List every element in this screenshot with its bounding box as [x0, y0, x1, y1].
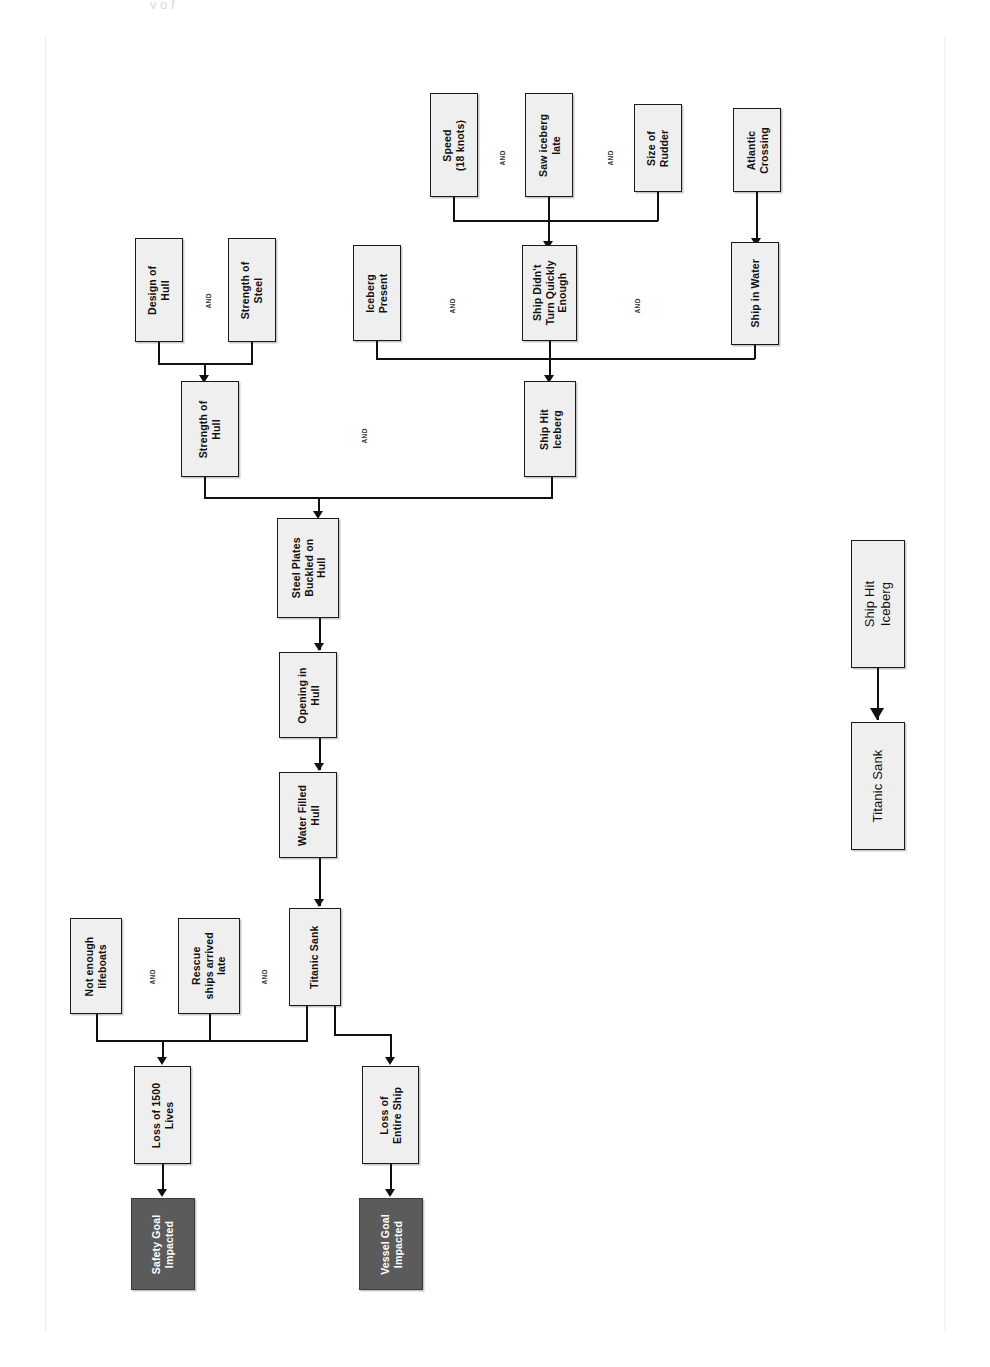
edge-lossship-bus	[334, 1034, 392, 1036]
node-loss-of-1500-lives-label: Loss of 1500 Lives	[150, 1082, 175, 1147]
node-ship-hit-iceberg-label: Ship Hit Iceberg	[538, 409, 563, 450]
node-strength-of-steel[interactable]: Strength of Steel	[228, 238, 276, 342]
node-ship-hit-iceberg[interactable]: Ship Hit Iceberg	[524, 381, 576, 477]
node-atlantic-crossing-label: Atlantic Crossing	[745, 127, 770, 174]
edge-design-down	[158, 342, 160, 364]
gate-and-sawlate-rudder: AND	[598, 136, 622, 160]
inset-arrowhead-to-titanic-sank	[870, 708, 884, 720]
edge-sank-right-down	[334, 1006, 336, 1036]
inset-node-ship-hit-iceberg-label: Ship Hit Iceberg	[862, 581, 894, 628]
node-ship-in-water-label: Ship in Water	[749, 259, 762, 328]
node-rescue-ships-arrived-late[interactable]: Rescue ships arrived late	[178, 918, 240, 1014]
arrowhead-to-vessel-goal	[385, 1189, 395, 1197]
gate-and-hull-hiticeberg: AND	[352, 414, 376, 438]
edge-top-bus	[453, 220, 658, 222]
gate-and-noturn-shipwater: AND	[625, 284, 649, 308]
node-loss-of-entire-ship-label: Loss of Entire Ship	[378, 1086, 403, 1143]
node-safety-goal-impacted-label: Safety Goal Impacted	[150, 1214, 175, 1273]
arrowhead-to-safety-goal	[157, 1189, 167, 1197]
gate-and-design-steel: AND	[196, 279, 220, 303]
node-size-of-rudder[interactable]: Size of Rudder	[634, 104, 682, 192]
edge-iceberg-down	[376, 341, 378, 359]
edge-hiticeberg-down	[551, 477, 553, 499]
edge-strengthhull-down	[204, 477, 206, 499]
node-vessel-goal-impacted-label: Vessel Goal Impacted	[378, 1214, 403, 1275]
edge-rudder-down	[657, 192, 659, 221]
edge-losslives-bus	[96, 1040, 308, 1042]
node-iceberg-present[interactable]: Iceberg Present	[353, 245, 401, 341]
arrowhead-to-water-filled-hull	[314, 763, 324, 771]
gate-and-lifeboats-rescue: AND	[140, 955, 164, 979]
node-water-filled-hull[interactable]: Water Filled Hull	[279, 772, 337, 858]
node-not-enough-lifeboats[interactable]: Not enough lifeboats	[70, 918, 122, 1014]
inset-node-titanic-sank[interactable]: Titanic Sank	[851, 722, 905, 850]
node-design-of-hull-label: Design of Hull	[147, 265, 172, 314]
node-titanic-sank-label: Titanic Sank	[309, 925, 322, 988]
edge-sawlate-down	[548, 197, 550, 245]
edge-hit-bus	[376, 358, 755, 360]
node-strength-of-steel-label: Strength of Steel	[240, 261, 265, 319]
node-speed-label: Speed (18 knots)	[442, 119, 467, 170]
node-size-of-rudder-label: Size of Rudder	[646, 129, 671, 167]
node-atlantic-crossing[interactable]: Atlantic Crossing	[733, 108, 781, 192]
node-loss-of-entire-ship[interactable]: Loss of Entire Ship	[362, 1066, 419, 1164]
arrowhead-to-loss-of-entire-ship	[385, 1057, 395, 1065]
node-rescue-ships-arrived-late-label: Rescue ships arrived late	[190, 932, 228, 999]
node-steel-plates-buckled-label: Steel Plates Buckled on Hull	[289, 538, 327, 599]
node-ship-didnt-turn-quickly-enough-label: Ship Didn't Turn Quickly Enough	[531, 260, 569, 325]
titanic-causal-diagram: Speed (18 knots) Saw iceberg late Size o…	[0, 0, 990, 1367]
gate-and-speed-sawlate: AND	[490, 136, 514, 160]
edge-speed-down	[453, 197, 455, 221]
inset-node-ship-hit-iceberg[interactable]: Ship Hit Iceberg	[851, 540, 905, 668]
gate-and-iceberg-noturn: AND	[440, 284, 464, 308]
edge-steel-down	[251, 342, 253, 364]
node-vessel-goal-impacted[interactable]: Vessel Goal Impacted	[359, 1198, 423, 1290]
node-iceberg-present-label: Iceberg Present	[364, 273, 389, 313]
node-speed[interactable]: Speed (18 knots)	[430, 93, 478, 197]
node-loss-of-1500-lives[interactable]: Loss of 1500 Lives	[134, 1066, 191, 1164]
node-saw-iceberg-late-label: Saw iceberg late	[537, 114, 562, 177]
node-steel-plates-buckled[interactable]: Steel Plates Buckled on Hull	[277, 518, 339, 618]
edge-shipwater-down	[754, 345, 756, 359]
node-saw-iceberg-late[interactable]: Saw iceberg late	[525, 93, 573, 197]
edge-buckled-bus	[204, 497, 553, 499]
gate-and-rescue-sank: AND	[252, 955, 276, 979]
arrowhead-to-loss-of-lives	[157, 1057, 167, 1065]
node-ship-didnt-turn-quickly-enough[interactable]: Ship Didn't Turn Quickly Enough	[522, 245, 577, 341]
inset-node-titanic-sank-label: Titanic Sank	[870, 750, 886, 823]
arrowhead-to-opening-in-hull	[314, 643, 324, 651]
edge-sank-left-down	[306, 1006, 308, 1042]
node-opening-in-hull-label: Opening in Hull	[296, 667, 321, 723]
node-water-filled-hull-label: Water Filled Hull	[296, 785, 321, 846]
edge-lifeboats-down	[96, 1014, 98, 1042]
edge-rescue-down	[209, 1014, 211, 1042]
node-titanic-sank[interactable]: Titanic Sank	[289, 908, 341, 1006]
node-strength-of-hull[interactable]: Strength of Hull	[181, 381, 239, 477]
edge-atlantic-to-shipwater	[756, 192, 758, 242]
node-ship-in-water[interactable]: Ship in Water	[731, 242, 779, 345]
node-opening-in-hull[interactable]: Opening in Hull	[279, 652, 337, 738]
node-strength-of-hull-label: Strength of Hull	[198, 400, 223, 458]
node-design-of-hull[interactable]: Design of Hull	[135, 238, 183, 342]
node-not-enough-lifeboats-label: Not enough lifeboats	[84, 936, 109, 996]
arrowhead-to-titanic-sank	[314, 899, 324, 907]
node-safety-goal-impacted[interactable]: Safety Goal Impacted	[131, 1198, 195, 1290]
